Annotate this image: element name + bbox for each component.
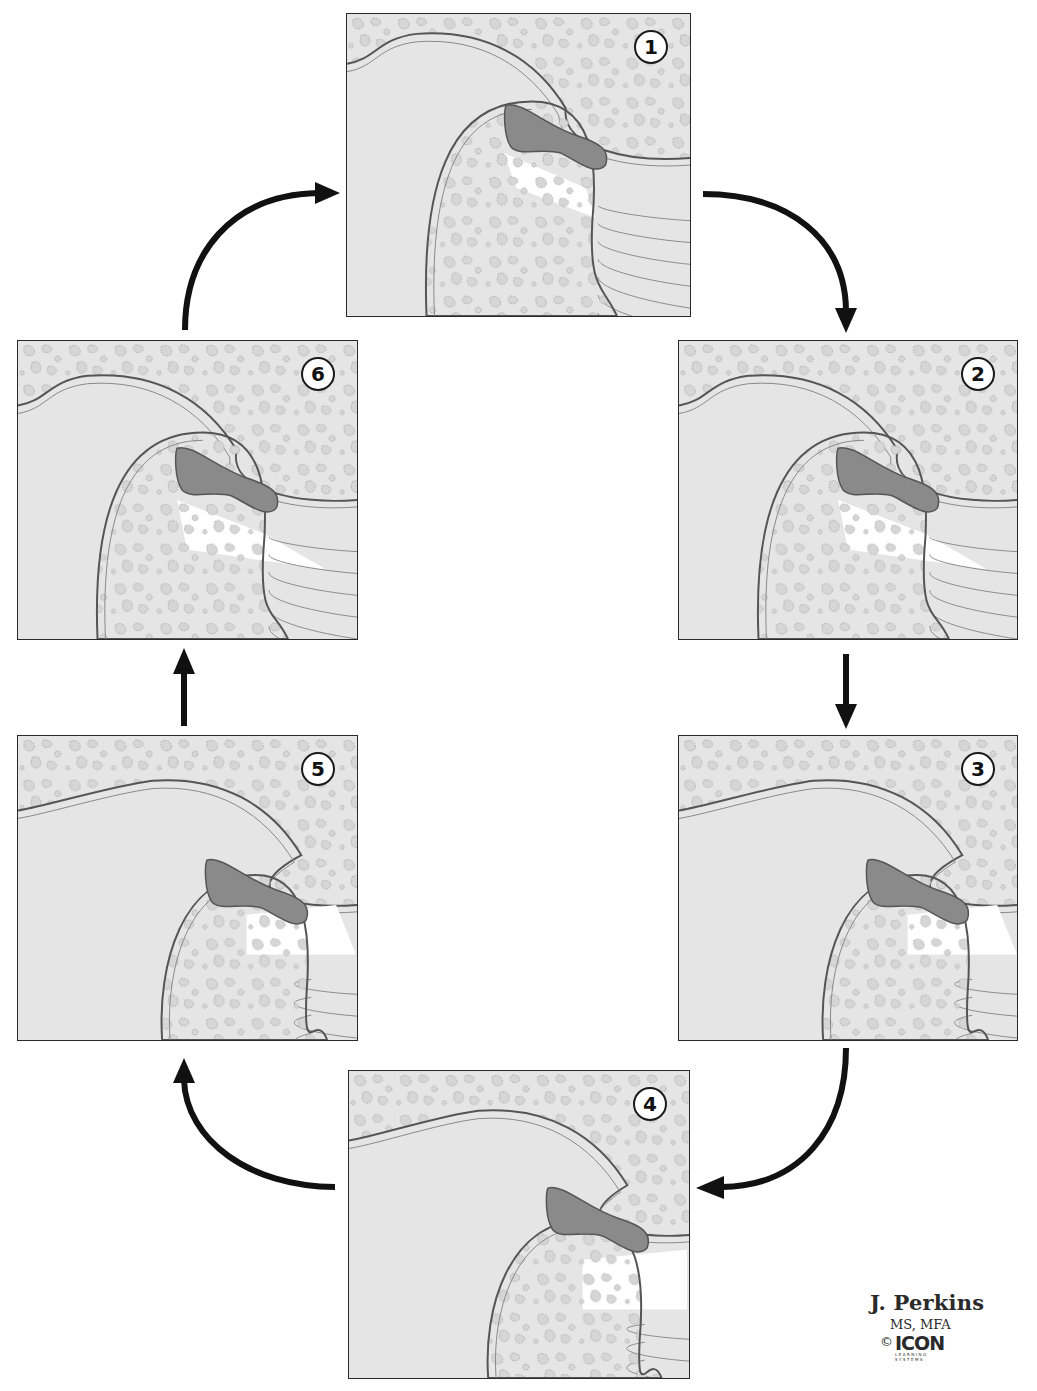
panel-4: 4 [348, 1070, 690, 1379]
author-name: J. Perkins [870, 1290, 984, 1315]
arrowhead-4-to-5 [173, 1058, 195, 1083]
artist-credit: J. Perkins MS, MFA © ICON LEARNING SYSTE… [870, 1290, 984, 1362]
arrowhead-5-to-6 [173, 648, 195, 674]
logo-wordmark: ICON [895, 1334, 944, 1352]
arrow-1-to-2 [703, 194, 846, 310]
arrow-6-to-1 [185, 193, 318, 330]
stage-number-badge: 5 [301, 752, 335, 786]
arrow-3-to-4 [722, 1048, 846, 1187]
arrowhead-3-to-4 [696, 1176, 724, 1199]
arrowhead-6-to-1 [315, 182, 340, 204]
arrow-4-to-5 [184, 1080, 335, 1187]
arrowhead-2-to-3 [835, 704, 857, 729]
stage-number-badge: 4 [633, 1087, 667, 1121]
stage-number-badge: 1 [634, 30, 668, 64]
panel-6: 6 [17, 340, 358, 640]
arrowhead-1-to-2 [835, 308, 857, 333]
publisher-logo: © ICON LEARNING SYSTEMS [880, 1334, 984, 1362]
stage-number-badge: 6 [301, 357, 335, 391]
panel-3: 3 [678, 735, 1018, 1041]
panel-5: 5 [17, 735, 358, 1041]
stage-number-badge: 3 [961, 752, 995, 786]
author-degrees: MS, MFA [890, 1317, 984, 1332]
panel-2: 2 [678, 340, 1018, 640]
logo-subtext-systems: SYSTEMS [895, 1357, 944, 1362]
stage-number-badge: 2 [961, 357, 995, 391]
copyright-symbol: © [880, 1334, 893, 1349]
panel-1: 1 [346, 13, 691, 317]
